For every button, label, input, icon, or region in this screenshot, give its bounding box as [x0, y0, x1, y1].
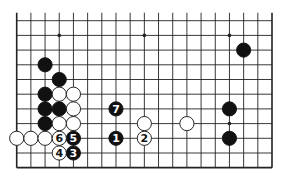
star-point — [228, 122, 232, 126]
move-number-label: 1 — [112, 132, 120, 145]
move-2: 2 — [137, 131, 151, 145]
black-stone — [38, 102, 52, 116]
move-number-label: 5 — [70, 132, 78, 145]
star-point — [228, 34, 232, 38]
black-stone-icon — [52, 102, 66, 116]
black-stone — [222, 131, 236, 145]
black-stone-icon — [237, 43, 251, 57]
star-point — [143, 34, 147, 38]
move-1: 1 — [109, 131, 123, 145]
go-board-diagram: 1234567 — [0, 0, 288, 184]
black-stone-icon — [222, 102, 236, 116]
black-stone-icon — [38, 58, 52, 72]
white-stone-icon — [66, 102, 80, 116]
white-stone — [52, 87, 66, 101]
white-stone — [137, 117, 151, 131]
move-number-label: 2 — [141, 132, 149, 145]
white-stone — [38, 131, 52, 145]
white-stone-icon — [66, 87, 80, 101]
black-stone-icon — [38, 87, 52, 101]
black-stone-icon — [52, 72, 66, 86]
white-stone-icon — [180, 117, 194, 131]
move-number-label: 3 — [70, 147, 78, 160]
black-stone-icon — [222, 131, 236, 145]
black-stone — [52, 102, 66, 116]
white-stone-icon — [66, 117, 80, 131]
white-stone — [66, 87, 80, 101]
black-stone-icon — [38, 117, 52, 131]
move-7: 7 — [109, 102, 123, 116]
white-stone — [66, 102, 80, 116]
move-number-label: 6 — [55, 132, 63, 145]
black-stone — [38, 117, 52, 131]
star-point — [57, 34, 61, 38]
white-stone-icon — [38, 131, 52, 145]
white-stone-icon — [52, 87, 66, 101]
black-stone — [222, 102, 236, 116]
black-stone — [237, 43, 251, 57]
move-5: 5 — [66, 131, 80, 145]
white-stone — [24, 131, 38, 145]
black-stone — [38, 87, 52, 101]
white-stone-icon — [24, 131, 38, 145]
move-3: 3 — [66, 146, 80, 160]
move-number-label: 7 — [112, 103, 120, 116]
move-number-label: 4 — [55, 147, 63, 160]
black-stone — [38, 58, 52, 72]
white-stone-icon — [10, 131, 24, 145]
white-stone-icon — [52, 117, 66, 131]
white-stone — [10, 131, 24, 145]
black-stone — [52, 72, 66, 86]
white-stone — [180, 117, 194, 131]
white-stone — [66, 117, 80, 131]
white-stone — [52, 117, 66, 131]
move-4: 4 — [52, 146, 66, 160]
white-stone-icon — [137, 117, 151, 131]
black-stone-icon — [38, 102, 52, 116]
move-6: 6 — [52, 131, 66, 145]
